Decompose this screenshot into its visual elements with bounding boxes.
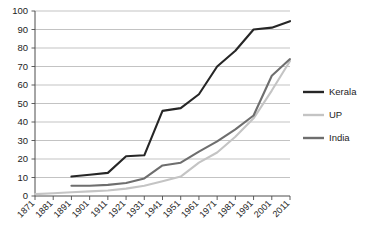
y-axis-tick-label: 40 bbox=[17, 116, 28, 127]
y-axis-tick-label: 20 bbox=[17, 153, 28, 164]
x-axis-tick-label: 1891 bbox=[52, 198, 73, 219]
x-axis-tick-label: 1921 bbox=[106, 198, 127, 219]
series-line-india bbox=[71, 59, 290, 186]
line-chart: 0102030405060708090100 18711881189119011… bbox=[0, 0, 380, 241]
legend-label-kerala: Kerala bbox=[329, 86, 357, 97]
y-axis-tick-label: 60 bbox=[17, 79, 28, 90]
x-axis-tick-label: 1991 bbox=[234, 198, 255, 219]
y-axis-labels: 0102030405060708090100 bbox=[12, 5, 28, 201]
y-axis-tick-label: 80 bbox=[17, 42, 28, 53]
legend-label-up: UP bbox=[329, 109, 342, 120]
x-axis-labels: 1871188118911901191119211931194119511961… bbox=[15, 198, 291, 219]
series-line-up bbox=[35, 61, 290, 194]
x-axis-tick-label: 1931 bbox=[124, 198, 145, 219]
x-axis-tick-label: 2011 bbox=[271, 198, 292, 219]
x-axis-tick-label: 1901 bbox=[70, 198, 91, 219]
y-axis-tick-label: 100 bbox=[12, 5, 28, 16]
x-axis-tick-label: 1941 bbox=[143, 198, 164, 219]
x-axis-tick-label: 1911 bbox=[89, 198, 110, 219]
y-axis-tick-label: 30 bbox=[17, 135, 28, 146]
x-axis-tick-label: 1971 bbox=[197, 198, 218, 219]
y-axis-tick-label: 50 bbox=[17, 98, 28, 109]
x-axis-ticks bbox=[35, 196, 290, 200]
chart-canvas: 0102030405060708090100 18711881189119011… bbox=[0, 0, 380, 241]
legend: KeralaUPIndia bbox=[303, 86, 357, 143]
y-axis-ticks bbox=[32, 11, 36, 196]
legend-label-india: India bbox=[329, 132, 350, 143]
y-axis-tick-label: 70 bbox=[17, 61, 28, 72]
x-axis-tick-label: 1871 bbox=[15, 198, 36, 219]
x-axis-tick-label: 2001 bbox=[252, 198, 273, 219]
gridlines-group bbox=[35, 11, 290, 178]
x-axis-tick-label: 1951 bbox=[161, 198, 182, 219]
data-series-group bbox=[35, 21, 290, 194]
y-axis-tick-label: 10 bbox=[17, 172, 28, 183]
x-axis-tick-label: 1881 bbox=[33, 198, 54, 219]
x-axis-tick-label: 1981 bbox=[216, 198, 237, 219]
y-axis-tick-label: 90 bbox=[17, 24, 28, 35]
x-axis-tick-label: 1961 bbox=[179, 198, 200, 219]
series-line-kerala bbox=[71, 21, 290, 176]
